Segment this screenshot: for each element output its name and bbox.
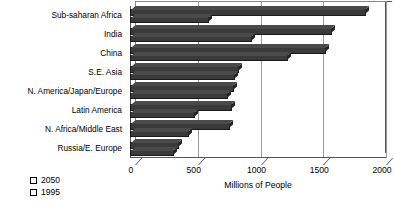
bar-top-face xyxy=(131,6,369,10)
category-label: China xyxy=(100,49,126,58)
bar-top-face xyxy=(131,25,335,29)
legend-item[interactable]: 1995 xyxy=(30,188,60,197)
bar-1995-china xyxy=(130,55,288,61)
x-axis-tick xyxy=(135,158,142,165)
x-axis-tick xyxy=(261,158,268,165)
bar-top-face xyxy=(131,14,212,18)
legend-swatch-icon xyxy=(30,177,37,184)
x-axis-tick-label: 1000 xyxy=(247,165,266,175)
bar-series-container xyxy=(130,6,386,158)
legend-item[interactable]: 2050 xyxy=(30,176,60,185)
legend: 2050 1995 xyxy=(30,176,60,200)
bar-top-face xyxy=(131,101,235,105)
legend-label: 1995 xyxy=(41,188,60,197)
x-axis-title: Millions of People xyxy=(130,180,386,190)
gridline xyxy=(386,1,387,158)
x-axis-tick xyxy=(386,158,393,165)
bar-top-face xyxy=(131,82,238,86)
x-axis-tick-label: 2000 xyxy=(372,165,391,175)
x-axis-tick xyxy=(198,158,205,165)
bar-top-face xyxy=(131,147,177,151)
bar-top-face xyxy=(131,139,182,143)
bar-chart: Sub-saharan Africa India China S.E. Asia… xyxy=(0,0,395,218)
bar-1995-s-e-asia xyxy=(130,74,235,80)
legend-label: 2050 xyxy=(41,176,60,185)
bar-1995-latin-america xyxy=(130,112,195,118)
category-label: S.E. Asia xyxy=(88,68,126,77)
bar-top-face xyxy=(131,71,239,75)
bar-1995-n-africa-middle-east xyxy=(130,131,189,137)
bar-top-face xyxy=(131,120,234,124)
bar-1995-russia-e-europe xyxy=(130,150,174,156)
plot-area xyxy=(130,6,386,158)
category-label: Latin America xyxy=(72,106,126,115)
x-axis-tick xyxy=(323,158,330,165)
category-label: N. Africa/Middle East xyxy=(45,125,126,134)
bar-top-face xyxy=(131,109,199,113)
x-axis-tick-label: 500 xyxy=(187,165,201,175)
category-label: India xyxy=(104,30,126,39)
category-label: Russia/E. Europe xyxy=(57,144,126,153)
legend-swatch-icon xyxy=(30,189,37,196)
bar-top-face xyxy=(131,128,192,132)
bar-top-face xyxy=(131,90,231,94)
bar-top-face xyxy=(131,52,292,56)
x-axis-tick-label: 1500 xyxy=(310,165,329,175)
bar-1995-sub-saharan-africa xyxy=(130,17,209,23)
bar-1995-india xyxy=(130,36,252,42)
category-label: N. America/Japan/Europe xyxy=(27,87,126,96)
bar-top-face xyxy=(131,33,255,37)
bar-1995-n-america-japan-europe xyxy=(130,93,228,99)
bar-top-face xyxy=(131,63,243,67)
x-axis-tick-label: 0 xyxy=(129,165,134,175)
category-axis-labels: Sub-saharan Africa India China S.E. Asia… xyxy=(0,6,126,158)
category-label: Sub-saharan Africa xyxy=(51,11,126,20)
x-axis: 0500100015002000 xyxy=(125,158,391,176)
bar-top-face xyxy=(131,44,329,48)
